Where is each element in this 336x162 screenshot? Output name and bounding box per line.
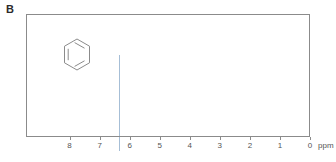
- axis-tick: [310, 137, 311, 140]
- axis-tick: [130, 137, 131, 140]
- axis-tick: [190, 137, 191, 140]
- axis-tick: [70, 137, 71, 140]
- axis-tick-label: 0: [300, 141, 320, 151]
- axis-tick: [250, 137, 251, 140]
- x-axis: 876543210 ppm: [26, 136, 310, 162]
- spectrum-trace: [54, 30, 336, 151]
- axis-tick: [220, 137, 221, 140]
- axis-tick: [280, 137, 281, 140]
- nmr-spectrum-figure: B 876543210 ppm: [0, 0, 336, 162]
- axis-tick-label: 5: [150, 141, 170, 151]
- axis-tick-label: 2: [240, 141, 260, 151]
- axis-tick-label: 3: [210, 141, 230, 151]
- axis-cap-left: [26, 129, 27, 136]
- axis-tick-label: 8: [60, 141, 80, 151]
- axis-unit-label: ppm: [318, 141, 334, 151]
- axis-tick-label: 7: [90, 141, 110, 151]
- axis-tick: [160, 137, 161, 140]
- axis-tick-label: 6: [120, 141, 140, 151]
- axis-tick: [100, 137, 101, 140]
- panel-label: B: [6, 3, 14, 16]
- plot-frame: [26, 14, 310, 137]
- axis-cap-right: [309, 129, 310, 136]
- axis-tick-label: 1: [270, 141, 290, 151]
- axis-tick-label: 4: [180, 141, 200, 151]
